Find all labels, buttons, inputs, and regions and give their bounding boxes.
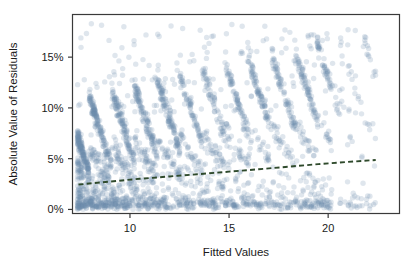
data-point	[192, 80, 197, 85]
data-point	[285, 190, 290, 195]
data-point	[129, 156, 134, 161]
data-point	[248, 49, 253, 54]
data-point	[330, 61, 335, 66]
data-point	[85, 160, 90, 165]
data-point	[233, 146, 238, 151]
data-point	[359, 111, 364, 116]
data-point	[114, 153, 119, 158]
data-point	[207, 81, 212, 86]
data-point	[88, 98, 93, 103]
data-point	[287, 199, 292, 204]
data-point	[316, 113, 321, 118]
data-point	[118, 189, 123, 194]
data-point	[265, 117, 270, 122]
data-point	[117, 112, 122, 117]
data-point	[299, 72, 304, 77]
data-point	[305, 185, 310, 190]
data-point	[255, 137, 260, 142]
data-point	[324, 31, 329, 36]
data-point	[326, 129, 331, 134]
data-point	[298, 178, 303, 183]
data-point	[257, 144, 262, 149]
data-point	[220, 193, 225, 198]
data-point	[339, 86, 344, 91]
data-point	[193, 184, 198, 189]
data-point	[351, 203, 356, 208]
data-point	[214, 154, 219, 159]
data-point	[286, 175, 291, 180]
data-point	[360, 181, 365, 186]
data-point	[153, 152, 158, 157]
data-point	[232, 152, 237, 157]
data-point	[323, 134, 328, 139]
data-point	[170, 204, 175, 209]
data-point	[347, 63, 352, 68]
data-point	[158, 90, 163, 95]
data-point	[308, 192, 313, 197]
data-point	[152, 147, 157, 152]
data-point	[140, 194, 145, 199]
data-point	[246, 196, 251, 201]
data-point	[239, 24, 244, 29]
data-point	[312, 62, 317, 67]
data-point	[131, 202, 136, 207]
data-point	[346, 203, 351, 208]
data-point	[147, 197, 152, 202]
data-point	[192, 154, 197, 159]
data-point	[274, 136, 279, 141]
data-point	[112, 72, 117, 77]
data-point	[252, 162, 257, 167]
data-point	[276, 145, 281, 150]
data-point	[206, 41, 211, 46]
data-point	[225, 162, 230, 167]
data-point	[364, 196, 369, 201]
data-point	[325, 36, 330, 41]
data-point	[94, 204, 99, 209]
data-point	[132, 109, 137, 114]
data-point	[86, 173, 91, 178]
data-point	[265, 144, 270, 149]
data-point	[196, 163, 201, 168]
data-point	[152, 195, 157, 200]
data-point	[208, 178, 213, 183]
data-point	[239, 49, 244, 54]
data-point	[121, 24, 126, 29]
data-point	[117, 81, 122, 86]
data-point	[75, 166, 80, 171]
data-point	[353, 73, 358, 78]
data-point	[281, 89, 286, 94]
data-point	[135, 88, 140, 93]
data-point	[249, 172, 254, 177]
data-point	[292, 37, 297, 42]
data-point	[125, 196, 130, 201]
data-point	[170, 191, 175, 196]
data-point	[224, 31, 229, 36]
data-point	[179, 195, 184, 200]
data-point	[88, 132, 93, 137]
data-point	[244, 201, 249, 206]
data-point	[92, 156, 97, 161]
data-point	[143, 110, 148, 115]
data-point	[337, 101, 342, 106]
data-point	[182, 82, 187, 87]
data-point	[169, 97, 174, 102]
data-point	[301, 141, 306, 146]
data-point	[310, 101, 315, 106]
data-point	[227, 145, 232, 150]
data-point	[373, 200, 378, 205]
data-point	[273, 103, 278, 108]
data-point	[326, 175, 331, 180]
data-point	[145, 180, 150, 185]
data-point	[154, 103, 159, 108]
data-point	[276, 183, 281, 188]
data-point	[351, 190, 356, 195]
data-point	[93, 124, 98, 129]
data-point	[154, 185, 159, 190]
data-point	[224, 177, 229, 182]
data-point	[264, 36, 269, 41]
data-point	[86, 201, 91, 206]
data-point	[176, 144, 181, 149]
data-point	[93, 185, 98, 190]
data-point	[137, 106, 142, 111]
data-point	[304, 179, 309, 184]
